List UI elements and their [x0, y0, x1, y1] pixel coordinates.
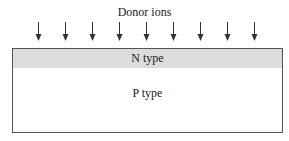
down-arrow-icon — [223, 22, 232, 42]
n-type-label: N type — [131, 51, 163, 66]
down-arrow-icon — [196, 22, 205, 42]
p-type-label: P type — [13, 86, 282, 101]
down-arrow-icon — [250, 22, 259, 42]
down-arrow-icon — [34, 22, 43, 42]
down-arrow-icon — [61, 22, 70, 42]
p-type-substrate: P type — [12, 68, 283, 133]
down-arrow-icon — [169, 22, 178, 42]
n-type-layer: N type — [12, 48, 283, 69]
down-arrow-icon — [115, 22, 124, 42]
down-arrow-icon — [88, 22, 97, 42]
down-arrow-icon — [142, 22, 151, 42]
donor-ions-label: Donor ions — [0, 5, 289, 20]
